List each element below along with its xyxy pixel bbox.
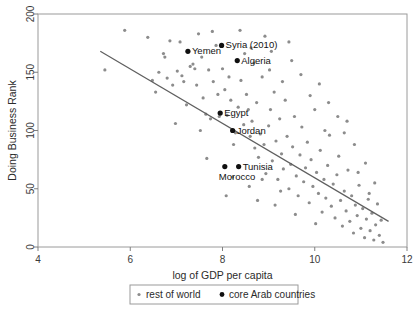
data-point [367,198,370,201]
data-point [350,194,353,197]
country-label: Syria (2010) [226,39,278,50]
plot-frame [38,14,407,247]
data-point [298,153,301,156]
data-point [287,187,290,190]
data-point [245,93,248,96]
scatter-plot: 4681012050100150200 YemenSyria (2010)Alg… [0,0,420,313]
data-point [274,139,277,142]
data-point [345,209,348,212]
data-point [376,202,379,205]
data-point [281,80,284,83]
data-point [163,56,166,59]
legend-marker-core-arab [220,292,225,297]
data-point-labeled [222,164,227,169]
data-point [193,67,196,70]
country-labels: YemenSyria (2010)AlgeriaEgyptJordanTunis… [192,39,277,181]
data-point [178,40,181,43]
country-label: Morocco [219,171,255,182]
data-point [381,241,384,244]
x-tick-label: 4 [35,254,41,265]
data-point [309,158,312,161]
x-tick-label: 12 [401,254,413,265]
data-point [319,149,322,152]
country-label: Algeria [241,55,271,66]
x-tick-label: 8 [220,254,226,265]
data-point [327,101,330,104]
data-point [323,129,326,132]
data-point [343,189,346,192]
data-point [166,76,169,79]
data-point [353,143,356,146]
legend-label-core-arab: core Arab countries [229,289,315,300]
data-point [295,174,298,177]
data-point [229,99,232,102]
chart-root: 4681012050100150200 YemenSyria (2010)Alg… [0,0,420,313]
data-point [205,157,208,160]
data-point [191,62,194,65]
data-point [343,131,346,134]
data-point [299,73,302,76]
y-tick-label: 150 [25,63,36,80]
data-point-labeled [235,58,240,63]
x-tick-label: 6 [127,254,133,265]
data-point [315,171,318,174]
data-point [176,69,179,72]
data-point [337,155,340,158]
data-point [373,181,376,184]
data-point [280,152,283,155]
data-point [335,173,338,176]
axis-tick-labels: 4681012050100150200 [25,5,413,265]
data-point [227,75,230,78]
data-point [359,227,362,230]
data-point [313,108,316,111]
data-point [238,29,241,32]
y-tick-label: 0 [25,244,36,250]
data-point [256,199,259,202]
data-point [357,184,360,187]
data-point [146,36,149,39]
data-point [278,117,281,120]
data-point [374,223,377,226]
data-point [261,75,264,78]
data-point [182,80,185,83]
y-tick-label: 200 [25,5,36,22]
data-point [168,39,171,42]
data-point [253,146,256,149]
data-point [195,83,198,86]
data-point [273,90,276,93]
data-point [328,134,331,137]
data-point [330,205,333,208]
data-point [212,80,215,83]
data-point [300,125,303,128]
data-point [314,222,317,225]
data-point [311,185,314,188]
data-point [209,117,212,120]
data-point [250,120,253,123]
data-point [157,71,160,74]
data-point [185,103,188,106]
data-point [202,96,205,99]
data-point [317,192,320,195]
data-point [123,29,126,32]
data-point [363,236,366,239]
data-point [380,219,383,222]
data-point [282,167,285,170]
data-point-labeled [230,128,235,133]
data-point [180,74,183,77]
data-point [326,164,329,167]
data-point [318,82,321,85]
data-point [223,88,226,91]
data-point [239,79,242,82]
data-point [103,68,106,71]
data-point [294,213,297,216]
data-point [306,141,309,144]
data-point [290,59,293,62]
data-point [154,90,157,93]
data-point [267,124,270,127]
data-point [276,178,279,181]
data-point [285,135,288,138]
data-point [341,224,344,227]
data-point [378,234,381,237]
data-point [302,180,305,183]
data-point [269,108,272,111]
